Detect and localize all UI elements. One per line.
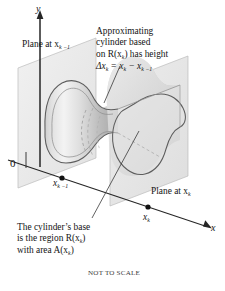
caption-top-line-3: on R(xk) has height	[96, 49, 168, 61]
caption-cylinder-base: The cylinder’s base is the region R(xk) …	[17, 222, 90, 257]
x-axis-label: x	[211, 222, 215, 234]
caption-top-line-4: Δxk = xk − xk −1	[96, 61, 168, 73]
not-to-scale-note: NOT TO SCALE	[88, 269, 140, 278]
tick-right-subscript: k	[147, 217, 150, 223]
caption-bottom-line-3a: with area A(x	[17, 245, 68, 255]
tick-label-xk-minus-1: xk −1	[53, 178, 68, 190]
origin-label: 0	[10, 157, 16, 170]
caption-top-line-4-sub3: k −1	[141, 65, 152, 71]
caption-top-line-3a: on R(x	[96, 49, 122, 59]
caption-top-line-1: Approximating	[96, 26, 168, 37]
tick-label-xk: xk	[143, 212, 150, 224]
figure-canvas: y x 0 Plane at xk −1 Plane at xk xk −1 x…	[0, 0, 225, 291]
caption-top-line-3b: ) has height	[124, 49, 168, 59]
caption-bottom-line-2a: is the region R(x	[17, 233, 80, 243]
y-axis-label: y	[36, 3, 40, 15]
caption-top-line-4c: − x	[126, 61, 141, 71]
caption-top-delta-x: Δx	[96, 61, 106, 71]
point-xk	[145, 204, 150, 209]
caption-bottom-line-1: The cylinder’s base	[17, 222, 90, 233]
tick-left-subscript: k −1	[57, 183, 68, 189]
plane-right-subscript: k	[188, 191, 191, 197]
plane-left-text: Plane at x	[22, 39, 59, 49]
caption-bottom-line-2b: )	[82, 233, 85, 243]
caption-bottom-line-3b: )	[71, 245, 74, 255]
caption-top-line-4b: = x	[108, 61, 123, 71]
label-plane-at-xk-minus-1: Plane at xk −1	[22, 39, 70, 51]
caption-top-line-2: cylinder based	[96, 37, 168, 48]
caption-bottom-line-3: with area A(xk)	[17, 245, 90, 257]
caption-approximating-cylinder: Approximating cylinder based on R(xk) ha…	[96, 26, 168, 72]
label-plane-at-xk: Plane at xk	[151, 186, 191, 198]
plane-left-subscript: k −1	[59, 44, 70, 50]
plane-right-text: Plane at x	[151, 186, 188, 196]
caption-bottom-line-2: is the region R(xk)	[17, 233, 90, 245]
